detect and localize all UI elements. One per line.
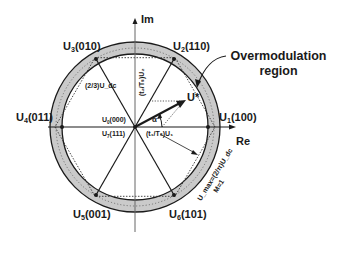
imag-axis-label: Im — [141, 14, 154, 25]
umax-pointer-arrowhead — [191, 150, 198, 155]
zero-vector-label-u7: U7(111) — [102, 130, 125, 140]
reference-vector-label: U* — [187, 92, 199, 103]
alpha-label: α — [152, 116, 157, 124]
overmodulation-region-label: Overmodulation region — [226, 49, 331, 79]
vector-label-u5: U5(001) — [73, 209, 111, 222]
zero-vector-label-u0: U0(000) — [102, 116, 126, 126]
callout-line-2: region — [226, 64, 331, 79]
vector-label-u3: U3(010) — [63, 41, 101, 54]
real-axis-label: Re — [236, 136, 250, 147]
vector-label-u6: U6(101) — [169, 209, 207, 222]
real-axis-arrow — [229, 125, 236, 130]
imag-axis-arrow — [133, 18, 138, 24]
vector-label-u2: U2(110) — [173, 41, 210, 54]
hexagon-edge-label: (2/3)U_dc — [85, 82, 117, 89]
callout-line-1: Overmodulation — [226, 49, 331, 64]
component-label-u1: (t₁/Tₛ)U₁ — [146, 130, 173, 137]
component-label-u2: (t₂/Tₛ)U₂ — [138, 69, 145, 97]
projection-u1 — [162, 102, 183, 127]
vector-label-u1: U1(100) — [219, 112, 257, 125]
vector-label-u4: U4(011) — [16, 112, 53, 125]
